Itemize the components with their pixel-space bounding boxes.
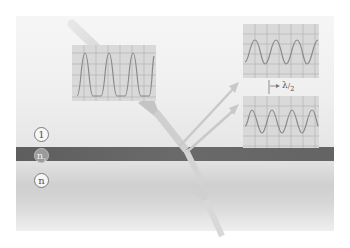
film-label-n1: n1 [34,148,49,163]
incident-wave-panel [72,45,156,101]
fraction-denominator: 2 [290,85,294,93]
shift-arrow-icon [276,84,280,88]
substrate-label-n: n [34,173,49,188]
medium-label-1: 1 [34,127,49,142]
reflected-wave-panel-1 [243,24,319,78]
reflected-wave-panel-2 [243,96,319,148]
phase-shift-marker [269,80,280,94]
transmitted-ray [186,150,222,236]
phase-shift-label: λ/2 [282,80,295,93]
ray-and-wave-overlay [0,0,350,248]
